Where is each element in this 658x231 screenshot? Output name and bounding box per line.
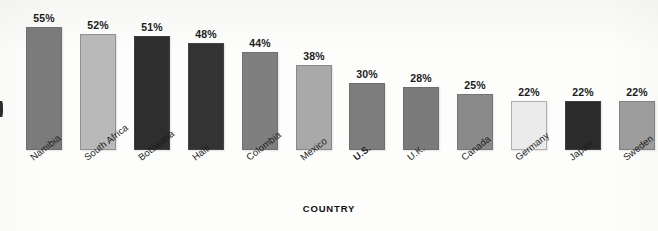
bar-group: 22% — [565, 0, 601, 150]
bar-value-label: 51% — [125, 21, 179, 33]
bar[interactable] — [403, 87, 439, 150]
bar-group: 48% — [188, 0, 224, 150]
bar-group: 22% — [511, 0, 547, 150]
bar-group: 55% — [26, 0, 62, 150]
bar[interactable] — [188, 43, 224, 150]
x-axis-title: COUNTRY — [0, 203, 658, 214]
bar-value-label: 28% — [394, 72, 448, 84]
bar-value-label: 22% — [502, 86, 556, 98]
bar-value-label: 44% — [233, 37, 287, 49]
bar-group: 22% — [619, 0, 655, 150]
bar-value-label: 52% — [71, 19, 125, 31]
bar[interactable] — [349, 83, 385, 150]
bar-value-label: 48% — [179, 28, 233, 40]
bar-group: 44% — [242, 0, 278, 150]
bar-value-label: 22% — [610, 86, 658, 98]
bar-value-label: 22% — [556, 86, 610, 98]
bar-value-label: 25% — [448, 79, 502, 91]
bar-group: 51% — [134, 0, 170, 150]
plot-area: 55%52%51%48%44%38%30%28%25%22%22%22% — [0, 0, 658, 150]
bar-value-label: 38% — [287, 50, 341, 62]
bar-group: 38% — [296, 0, 332, 150]
bar-value-label: 55% — [17, 12, 71, 24]
bar-chart: 55%52%51%48%44%38%30%28%25%22%22%22% COU… — [0, 0, 658, 231]
bar-group: 28% — [403, 0, 439, 150]
bar[interactable] — [296, 65, 332, 150]
bar-group: 52% — [80, 0, 116, 150]
bar-group: 30% — [349, 0, 385, 150]
bar-value-label: 30% — [340, 68, 394, 80]
bar-group: 25% — [457, 0, 493, 150]
